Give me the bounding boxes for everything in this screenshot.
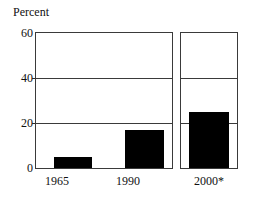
y-tick-label-20: 20 — [1, 117, 33, 129]
gridline-20 — [36, 78, 172, 79]
y-tick-label-0: 0 — [1, 162, 33, 174]
x-tick-label-1965: 1965 — [37, 174, 77, 188]
plot-panel-left — [35, 32, 173, 169]
plot-panel-right — [180, 32, 238, 169]
gridline-40 — [36, 123, 172, 124]
x-tick-label-1990: 1990 — [108, 174, 148, 188]
y-tick-label-40: 40 — [1, 72, 33, 84]
bar-chart: Percent 60 40 20 0 1965 1990 2000* — [0, 0, 256, 199]
y-tick-label-60: 60 — [1, 27, 33, 39]
bar-1965 — [54, 157, 92, 168]
bar-1990 — [125, 130, 164, 168]
gridline-20-right — [181, 78, 237, 79]
y-axis-ticks: 60 40 20 0 — [0, 0, 33, 199]
x-tick-label-2000: 2000* — [180, 174, 238, 188]
bar-2000 — [189, 112, 229, 168]
